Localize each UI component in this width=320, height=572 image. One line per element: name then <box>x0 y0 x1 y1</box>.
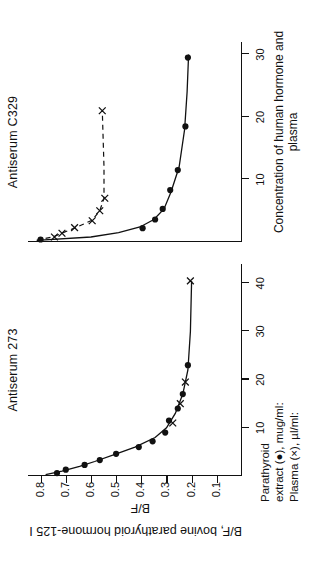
legend-line-1: Parathyroid <box>258 402 272 502</box>
data-point-filled-circle <box>180 391 186 397</box>
plot-area-left <box>28 264 242 476</box>
x-tick <box>242 427 249 428</box>
plot-area-right <box>28 42 242 242</box>
data-point-cross <box>96 207 103 214</box>
y-tick-label: 0.8 <box>35 482 46 506</box>
data-point-filled-circle <box>140 225 146 231</box>
data-point-cross <box>59 230 66 237</box>
x-tick-label: 30 <box>255 40 266 70</box>
fit-curve-solid <box>37 55 189 241</box>
data-point-filled-circle <box>54 470 60 476</box>
x-tick-label: 40 <box>255 268 266 298</box>
fit-curve-solid <box>46 281 192 475</box>
x-tick <box>242 378 249 379</box>
data-point-filled-circle <box>162 430 168 436</box>
panel-antiserum-273: Antiserum 273 0.10.20.30.40.50.60.70.810… <box>28 264 242 476</box>
x-tick <box>242 330 249 331</box>
data-point-filled-circle <box>38 236 44 242</box>
bf-axis-label: B/F <box>60 501 150 515</box>
data-point-filled-circle <box>136 444 142 450</box>
data-point-cross <box>101 195 108 202</box>
data-point-filled-circle <box>167 187 173 193</box>
data-point-filled-circle <box>160 206 166 212</box>
y-axis-caption: B/F, bovine parathyroid hormone-125 I <box>28 524 242 538</box>
x-tick <box>242 178 249 179</box>
data-point-filled-circle <box>152 216 158 222</box>
bf-label-wrap: B/F <box>150 501 240 515</box>
data-point-filled-circle <box>185 362 191 368</box>
x-tick-label: 20 <box>255 365 266 395</box>
legend-line-3: Plasma (×), µl/ml: <box>287 402 301 502</box>
data-point-filled-circle <box>150 438 156 444</box>
panel-title-left: Antiserum 273 <box>6 264 20 476</box>
x-axis-caption: Concentration of human hormone and plasm… <box>272 22 300 242</box>
x-tick <box>242 116 249 117</box>
panel-title-right: Antiserum C329 <box>6 42 20 242</box>
figure: Antiserum 273 0.10.20.30.40.50.60.70.810… <box>0 0 320 572</box>
data-point-cross <box>99 107 106 114</box>
x-tick <box>242 282 249 283</box>
legend-line-2: extract (●), mug/ml: <box>272 402 286 502</box>
fit-curve-dashed <box>37 111 104 241</box>
data-point-cross <box>187 277 194 284</box>
y-axis-caption-wrap: B/F, bovine parathyroid hormone-125 I <box>242 524 320 538</box>
figure-rotor: Antiserum 273 0.10.20.30.40.50.60.70.810… <box>0 0 320 572</box>
x-tick-label: 30 <box>255 316 266 346</box>
data-point-cross <box>71 224 78 231</box>
data-point-filled-circle <box>63 467 69 473</box>
data-point-filled-circle <box>175 167 181 173</box>
panel-antiserum-c329: Antiserum C329 102030 <box>28 42 242 242</box>
x-tick-label: 10 <box>255 165 266 195</box>
data-point-filled-circle <box>182 123 188 129</box>
x-tick <box>242 53 249 54</box>
data-point-filled-circle <box>82 462 88 468</box>
data-point-filled-circle <box>185 55 191 61</box>
x-tick-label: 20 <box>255 102 266 132</box>
data-point-filled-circle <box>97 457 103 463</box>
data-point-filled-circle <box>113 451 119 457</box>
legend: Parathyroid extract (●), mug/ml: Plasma … <box>258 402 301 502</box>
